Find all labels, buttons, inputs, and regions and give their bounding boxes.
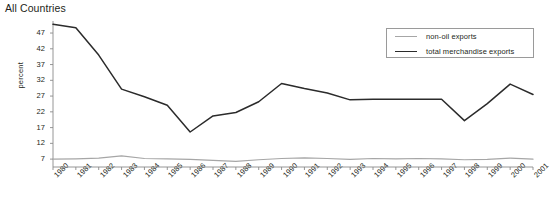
legend-swatch-total-merchandise-exports (395, 51, 417, 52)
legend-label-total-merchandise-exports: total merchandise exports (426, 47, 514, 56)
series-line-non-oil-exports (53, 156, 533, 161)
chart-legend: non-oil exports total merchandise export… (386, 28, 534, 58)
legend-item-total-merchandise-exports: total merchandise exports (387, 44, 533, 59)
legend-item-non-oil-exports: non-oil exports (387, 29, 533, 44)
chart-figure: All Countries percent 71217222732374247 … (0, 0, 551, 214)
legend-swatch-non-oil-exports (395, 36, 417, 37)
legend-label-non-oil-exports: non-oil exports (426, 32, 477, 41)
